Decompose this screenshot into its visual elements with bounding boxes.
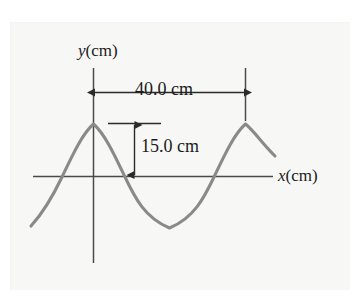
x-axis-label: x(cm) bbox=[278, 167, 318, 184]
y-axis-label: y(cm) bbox=[78, 42, 118, 59]
wavelength-label: 40.0 cm bbox=[135, 80, 193, 98]
y-axis-unit: (cm) bbox=[86, 41, 118, 60]
y-axis-variable: y bbox=[78, 41, 86, 60]
wave-figure: y(cm) x(cm) 40.0 cm 15.0 cm bbox=[0, 0, 363, 301]
x-axis-variable: x bbox=[278, 166, 286, 185]
amplitude-label: 15.0 cm bbox=[141, 137, 199, 155]
x-axis-unit: (cm) bbox=[286, 166, 318, 185]
